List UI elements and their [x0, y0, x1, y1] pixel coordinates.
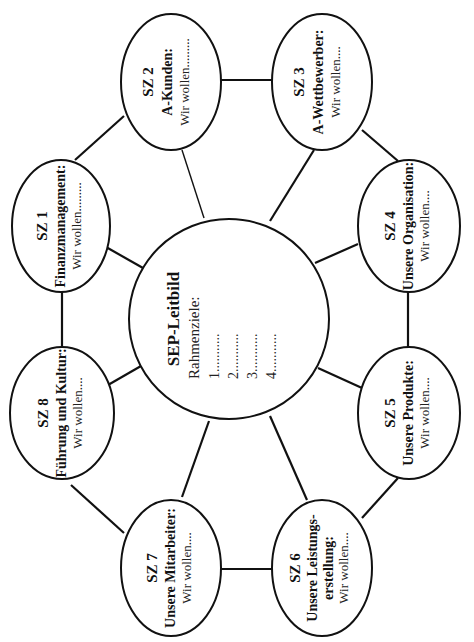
spoke-sz1 [106, 247, 143, 268]
node-sz2-id: SZ 2 [140, 67, 156, 97]
edge-sz5-sz6 [362, 478, 398, 518]
node-sz8-title: Führung und Kultur: [54, 348, 69, 477]
node-sz5-id: SZ 5 [382, 398, 398, 428]
node-sz1-title: Finanzmanagement: [53, 165, 68, 288]
node-sz6-id: SZ 6 [287, 553, 303, 583]
spoke-sz3 [270, 150, 314, 221]
node-sz7: SZ 7 Unsere Mitarbeiter: Wir wollen.... [121, 500, 221, 636]
node-sz6-title-line2: erstellung: [321, 536, 336, 600]
center-item-1: 1........... [207, 334, 222, 380]
spoke-sz7 [182, 421, 209, 497]
node-sz3-body: Wir wollen.... [328, 46, 343, 117]
spoke-sz6 [270, 416, 307, 500]
edge-sz3-sz4 [362, 130, 398, 161]
node-sz7-body: Wir wollen.... [179, 532, 194, 603]
spoke-sz2 [182, 150, 204, 218]
node-sz7-title: Unsere Mitarbeiter: [163, 508, 178, 628]
spoke-sz8 [108, 366, 141, 385]
node-sz5: SZ 5 Unsere Produkte: Wir wollen.... [358, 347, 460, 479]
node-sz1-body: Wir wollen......... [69, 182, 84, 270]
node-sz2: SZ 2 A-Kunden: Wir wollen......... [121, 14, 221, 150]
center-item-2: 2........... [226, 334, 241, 380]
node-sz3-title: A-Wettbewerber: [311, 30, 326, 135]
node-sz2-title: A-Kunden: [160, 48, 175, 116]
node-sz3-id: SZ 3 [291, 67, 307, 97]
node-sz4-id: SZ 4 [382, 211, 398, 241]
node-sz5-title: Unsere Produkte: [401, 360, 416, 466]
spoke-sz4 [315, 244, 358, 263]
center-node: SEP-Leitbild Rahmenziele: 1........... 2… [129, 219, 329, 419]
node-sz6-title: Unsere Leistungs- [305, 514, 320, 622]
sep-leitbild-diagram: SEP-Leitbild Rahmenziele: 1........... 2… [0, 0, 474, 642]
center-item-3: 3........... [245, 334, 260, 380]
center-title: SEP-Leitbild [164, 271, 183, 366]
node-sz2-body: Wir wollen......... [177, 38, 192, 126]
node-sz4: SZ 4 Unsere Organisation: Wir wollen.... [358, 160, 460, 292]
node-sz4-body: Wir wollen.... [417, 190, 432, 261]
node-sz6-body: Wir wollen.... [336, 532, 351, 603]
spoke-sz5 [318, 368, 362, 388]
center-subtitle: Rahmenziele: [186, 297, 202, 379]
node-sz1-id: SZ 1 [34, 211, 50, 241]
node-sz3: SZ 3 A-Wettbewerber: Wir wollen.... [272, 14, 372, 150]
node-sz8: SZ 8 Führung und Kultur: Wir wollen.... [10, 347, 114, 479]
node-sz4-title: Unsere Organisation: [401, 162, 416, 290]
node-sz7-id: SZ 7 [144, 553, 160, 583]
edge-sz1-sz2 [75, 116, 124, 160]
edge-sz7-sz8 [71, 485, 124, 533]
node-sz5-body: Wir wollen.... [417, 377, 432, 448]
center-circle [129, 219, 329, 419]
node-sz6: SZ 6 Unsere Leistungs- erstellung: Wir w… [272, 500, 372, 636]
node-sz8-body: Wir wollen.... [70, 377, 85, 448]
node-sz1: SZ 1 Finanzmanagement: Wir wollen.......… [12, 160, 110, 292]
node-sz8-id: SZ 8 [35, 398, 51, 428]
center-item-4: 4........... [264, 334, 279, 380]
